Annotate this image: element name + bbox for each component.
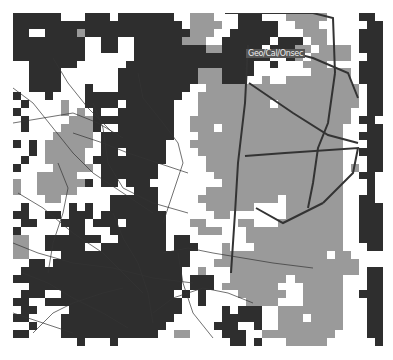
road-line: [13, 243, 193, 283]
road-line: [73, 133, 188, 173]
boundary-line: [225, 13, 335, 73]
place-label: Geo/Cal/Onsec: [246, 49, 305, 58]
road-line: [18, 193, 143, 293]
road-line: [13, 88, 153, 213]
road-line: [23, 273, 128, 328]
map-view[interactable]: Geo/Cal/Onsec: [13, 13, 383, 346]
road-line: [53, 58, 113, 133]
road-line: [93, 103, 188, 213]
boundary-line: [256, 203, 323, 223]
road-line: [138, 73, 183, 223]
map-overlay: [13, 13, 383, 346]
boundary-line: [231, 45, 248, 273]
road-line: [178, 253, 213, 338]
road-line: [163, 248, 313, 268]
boundary-line: [308, 73, 335, 208]
boundary-line: [245, 148, 358, 203]
road-line: [153, 288, 253, 313]
road-line: [13, 113, 123, 138]
road-line: [48, 163, 68, 273]
road-network: [13, 58, 313, 338]
road-line: [13, 313, 73, 333]
boundary-line: [249, 83, 358, 143]
road-line: [33, 288, 123, 333]
road-line: [113, 213, 153, 323]
